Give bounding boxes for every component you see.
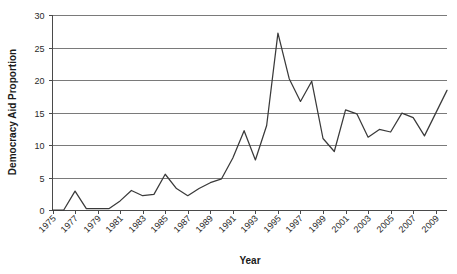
chart-container: 051015202530 197519771979198119831985198… (0, 0, 457, 274)
y-axis-title: Democracy Aid Proportion (7, 49, 18, 175)
y-tick-label: 5 (39, 174, 44, 184)
y-tick-label: 25 (34, 44, 44, 54)
y-tick-label: 10 (34, 141, 44, 151)
y-tick-label: 0 (39, 206, 44, 216)
democracy-aid-proportion-line-chart: 051015202530 197519771979198119831985198… (0, 0, 457, 274)
chart-background (0, 0, 457, 274)
y-tick-label: 15 (34, 109, 44, 119)
x-axis-title: Year (239, 255, 260, 266)
y-tick-label: 30 (34, 11, 44, 21)
y-tick-label: 20 (34, 76, 44, 86)
